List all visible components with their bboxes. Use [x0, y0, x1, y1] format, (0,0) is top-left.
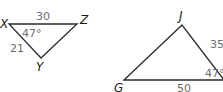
- vertex-label-y: Y: [36, 60, 45, 74]
- angle-label-x: 47°: [22, 27, 42, 40]
- side-label-xy: 21: [10, 42, 24, 55]
- vertex-label-j: J: [177, 9, 183, 23]
- vertex-label-g: G: [114, 81, 123, 92]
- vertex-label-x: X: [0, 17, 9, 31]
- triangle-gj: J G 35 47° 50: [114, 9, 223, 92]
- angle-label-right: 47°: [205, 67, 223, 80]
- triangle-xyz: X Z Y 30 47° 21: [0, 10, 89, 74]
- similar-triangles-diagram: X Z Y 30 47° 21 J G 35 47° 50: [0, 0, 223, 92]
- side-label-g-right: 50: [177, 82, 191, 92]
- side-label-xz: 30: [36, 10, 50, 23]
- vertex-label-z: Z: [79, 13, 89, 27]
- side-label-j-right: 35: [210, 38, 223, 51]
